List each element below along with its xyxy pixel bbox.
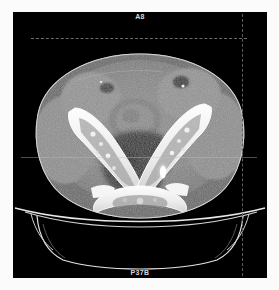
scanner-couch bbox=[13, 12, 267, 278]
scan-reference-line-horizontal[interactable] bbox=[31, 38, 247, 39]
dicom-canvas[interactable]: A8 P37B bbox=[13, 12, 267, 278]
couch-second-edge bbox=[25, 212, 257, 227]
anterior-orientation-label: A8 bbox=[110, 13, 170, 20]
crosshair-scanline[interactable] bbox=[21, 157, 257, 158]
scan-reference-line-vertical[interactable] bbox=[242, 14, 243, 276]
couch-rail-right bbox=[227, 214, 249, 250]
couch-inner-rail-right bbox=[215, 224, 237, 258]
couch-rail-left bbox=[31, 214, 53, 250]
posterior-series-label: P37B bbox=[110, 269, 170, 276]
couch-inner-rail-left bbox=[43, 224, 65, 258]
couch-pad-outline bbox=[37, 216, 243, 269]
dicom-viewer[interactable]: A8 P37B bbox=[0, 0, 279, 290]
